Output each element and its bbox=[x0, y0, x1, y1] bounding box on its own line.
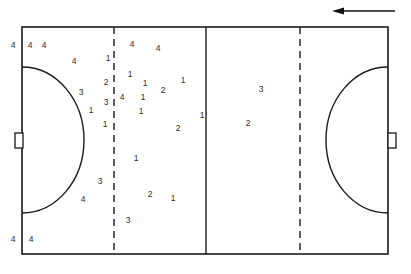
event-marker: 1 bbox=[128, 70, 133, 79]
event-marker: 4 bbox=[81, 195, 86, 204]
event-marker: 4 bbox=[130, 40, 135, 49]
event-marker: 4 bbox=[72, 57, 77, 66]
event-marker: 4 bbox=[28, 41, 33, 50]
event-marker: 1 bbox=[181, 76, 186, 85]
event-marker: 4 bbox=[156, 44, 161, 53]
event-marker: 4 bbox=[11, 41, 16, 50]
event-marker: 1 bbox=[103, 120, 108, 129]
event-marker: 3 bbox=[126, 216, 131, 225]
event-marker: 4 bbox=[120, 93, 125, 102]
event-marker: 1 bbox=[139, 107, 144, 116]
event-marker: 4 bbox=[29, 235, 34, 244]
event-marker: 2 bbox=[161, 86, 166, 95]
event-marker: 2 bbox=[104, 78, 109, 87]
direction-of-play-arrow bbox=[332, 8, 395, 15]
event-marker: 1 bbox=[141, 93, 146, 102]
event-marker: 3 bbox=[98, 177, 103, 186]
event-marker: 1 bbox=[134, 154, 139, 163]
goal-left bbox=[15, 133, 23, 148]
event-marker: 3 bbox=[79, 88, 84, 97]
event-marker: 4 bbox=[42, 41, 47, 50]
event-marker: 1 bbox=[171, 194, 176, 203]
event-marker: 2 bbox=[148, 190, 153, 199]
event-marker: 1 bbox=[200, 111, 205, 120]
event-marker: 2 bbox=[246, 119, 251, 128]
pitch-boundary bbox=[22, 27, 388, 254]
event-marker: 4 bbox=[11, 235, 16, 244]
event-marker: 1 bbox=[106, 54, 111, 63]
event-marker: 2 bbox=[176, 124, 181, 133]
event-marker: 3 bbox=[259, 85, 264, 94]
event-marker: 3 bbox=[104, 98, 109, 107]
goal-right bbox=[388, 133, 396, 148]
pitch-svg bbox=[0, 0, 411, 274]
event-marker: 1 bbox=[143, 79, 148, 88]
event-marker: 1 bbox=[89, 106, 94, 115]
pitch-diagram-container: 4444144121133412311212113214344 bbox=[0, 0, 411, 274]
